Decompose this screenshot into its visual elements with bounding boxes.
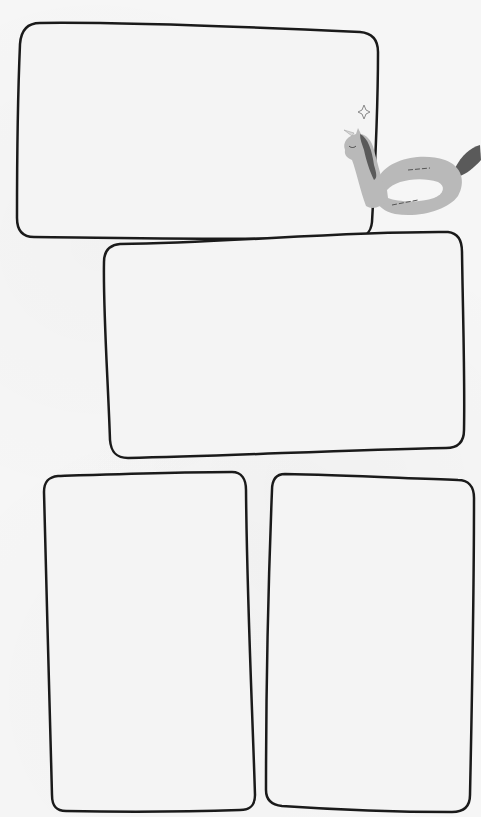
photo-frame-4[interactable] [266,474,474,812]
photo-frame-2[interactable] [104,232,464,458]
frames-layer [0,0,481,817]
photo-template-canvas [0,0,481,817]
photo-frame-1[interactable] [17,23,378,239]
photo-frame-3[interactable] [44,472,255,812]
